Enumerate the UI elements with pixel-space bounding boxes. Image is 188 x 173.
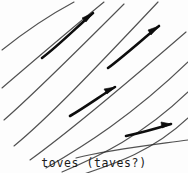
figure-caption: toves (taves?) bbox=[41, 156, 146, 170]
caption-area: toves (taves?) bbox=[0, 152, 188, 171]
flow-field-diagram bbox=[0, 0, 188, 173]
flow-field-figure: toves (taves?) bbox=[0, 0, 188, 173]
